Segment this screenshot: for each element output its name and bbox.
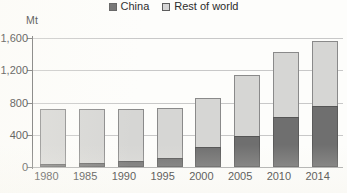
bar-group-2014 [312, 41, 338, 167]
x-axis-label-1980: 1980 [26, 170, 66, 182]
legend-item-china: China [109, 1, 150, 12]
bar-segment-china-1995 [157, 158, 183, 167]
y-axis-label-1200: 1,200 [0, 64, 28, 76]
bar-group-1995 [157, 108, 183, 167]
x-axis-label-2005: 2005 [220, 170, 260, 182]
bar-segment-rest-of-world-2005 [234, 75, 260, 136]
chart-legend: China Rest of world [0, 1, 347, 12]
stacked-bar-chart: China Rest of world Mt 1,600 1,200 800 4… [0, 0, 347, 193]
bar-segment-china-1990 [118, 161, 144, 167]
x-axis-label-1985: 1985 [65, 170, 105, 182]
bar-segment-rest-of-world-2000 [195, 98, 221, 147]
x-axis-label-1995: 1995 [143, 170, 183, 182]
x-axis-label-2010: 2010 [259, 170, 299, 182]
bar-group-1990 [118, 109, 144, 167]
bar-segment-china-2010 [273, 117, 299, 167]
legend-label-rest-of-world: Rest of world [174, 1, 238, 12]
bar-group-2005 [234, 75, 260, 167]
bar-group-1980 [40, 109, 66, 167]
bar-segment-china-2000 [195, 147, 221, 167]
x-axis-label-1990: 1990 [104, 170, 144, 182]
x-axis-labels: 19801985199019952000200520102014 [33, 170, 343, 190]
bar-segment-rest-of-world-2010 [273, 52, 299, 117]
bar-segment-rest-of-world-1980 [40, 109, 66, 163]
bar-segment-rest-of-world-1995 [157, 108, 183, 158]
x-axis-label-2000: 2000 [181, 170, 221, 182]
legend-item-rest-of-world: Rest of world [162, 1, 238, 12]
y-axis-label-400: 400 [10, 129, 28, 141]
bar-segment-rest-of-world-2014 [312, 41, 338, 106]
bar-series-layer [33, 38, 343, 167]
bar-segment-rest-of-world-1990 [118, 109, 144, 161]
bar-segment-rest-of-world-1985 [79, 109, 105, 163]
y-axis-label-1600: 1,600 [0, 32, 28, 44]
bar-segment-china-2005 [234, 136, 260, 167]
bar-segment-china-1980 [40, 164, 66, 167]
legend-label-china: China [121, 1, 150, 12]
x-axis-line [32, 167, 343, 168]
bar-segment-china-2014 [312, 106, 338, 167]
y-axis-labels: 1,600 1,200 800 400 0 [0, 0, 28, 193]
legend-swatch-icon-rest-of-world [162, 3, 170, 11]
bar-group-2000 [195, 98, 221, 167]
bar-segment-china-1985 [79, 163, 105, 167]
bar-group-2010 [273, 52, 299, 167]
x-axis-label-2014: 2014 [298, 170, 338, 182]
bar-group-1985 [79, 109, 105, 167]
legend-swatch-icon-china [109, 3, 117, 11]
y-axis-label-800: 800 [10, 97, 28, 109]
